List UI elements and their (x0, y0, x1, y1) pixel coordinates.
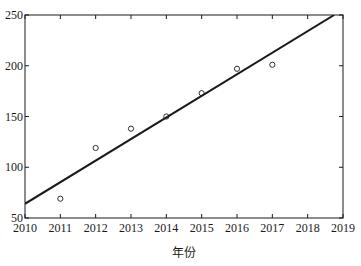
plot-border (25, 15, 343, 218)
plot-frame (25, 15, 343, 218)
x-tick-label: 2010 (13, 221, 37, 235)
data-point (234, 66, 239, 71)
x-tick-label: 2012 (84, 221, 108, 235)
x-axis-title: 年份 (172, 246, 196, 260)
x-tick-label: 2013 (119, 221, 143, 235)
x-tick-label: 2015 (190, 221, 214, 235)
y-tick-label: 250 (5, 8, 23, 22)
data-point (128, 126, 133, 131)
data-point (93, 145, 98, 150)
x-tick-label: 2019 (331, 221, 355, 235)
y-tick-label: 100 (5, 160, 23, 174)
x-tick-label: 2018 (296, 221, 320, 235)
y-tick-label: 150 (5, 110, 23, 124)
data-point (58, 196, 63, 201)
scatter-chart: 50100150200250 2010201120122013201420152… (0, 0, 361, 266)
data-point (270, 62, 275, 67)
x-tick-label: 2014 (154, 221, 178, 235)
regression-line (25, 15, 334, 204)
data-points (58, 62, 275, 201)
x-tick-label: 2016 (225, 221, 249, 235)
x-tick-label: 2017 (260, 221, 284, 235)
x-axis: 2010201120122013201420152016201720182019 (13, 15, 355, 235)
fit-line (25, 15, 334, 204)
y-tick-label: 200 (5, 59, 23, 73)
x-tick-label: 2011 (49, 221, 73, 235)
